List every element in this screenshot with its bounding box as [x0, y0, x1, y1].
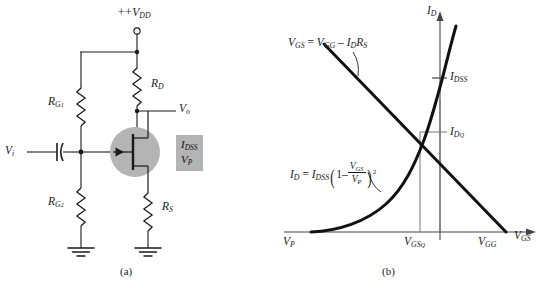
- x-tick-vgsq: VGSQ: [404, 236, 425, 249]
- circuit-schematic: [0, 0, 274, 288]
- x-tick-vgg: VGG: [478, 236, 496, 249]
- y-tick-idq: IDQ: [450, 126, 464, 139]
- resistor-rg2: [77, 152, 85, 248]
- resistor-rg1: [77, 88, 85, 152]
- vdd-terminal-icon: [134, 28, 140, 34]
- rd-label: RD: [151, 78, 164, 91]
- rs-label: RS: [162, 201, 173, 214]
- caption-b: (b): [382, 265, 395, 277]
- y-axis-label: ID: [427, 5, 437, 18]
- figure-container: ++VDD RD RG1 RG2 RS Vi Vo IDSS VP (a): [0, 0, 548, 288]
- leader-loadline: [353, 52, 358, 76]
- bias-load-line: [324, 44, 506, 232]
- shockley-equation: ID = IDSS(1–VGSVP)2: [290, 160, 376, 190]
- vdd-label: ++VDD: [118, 7, 151, 20]
- y-tick-idss: IDSS: [450, 71, 467, 84]
- resistor-rs: [144, 193, 152, 248]
- x-tick-vp: VP: [283, 236, 295, 249]
- caption-a: (a): [120, 265, 132, 277]
- rg2-label: RG2: [48, 196, 64, 209]
- y-axis-arrow-icon: [437, 11, 444, 21]
- rg1-label: RG1: [48, 96, 64, 109]
- vo-label: Vo: [179, 103, 190, 116]
- vp-param: VP: [181, 153, 198, 168]
- idss-param: IDSS: [181, 138, 198, 153]
- device-parameter-box: IDSS VP: [176, 135, 203, 171]
- coupling-capacitor: [27, 143, 81, 161]
- node-dot-vdd: [135, 50, 139, 54]
- shockley-curve: [311, 26, 456, 232]
- resistor-rd: [133, 68, 141, 134]
- vi-label: Vi: [5, 145, 14, 158]
- ground-symbol-gate: [68, 248, 94, 256]
- load-line-equation: VGS = VGG – IDRS: [288, 36, 367, 50]
- x-axis-label: VGS: [514, 230, 531, 243]
- ground-symbol-source: [135, 248, 161, 256]
